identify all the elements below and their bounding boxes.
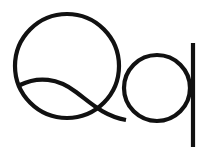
uppercase-q-tail bbox=[20, 80, 126, 120]
lowercase-q-bowl bbox=[124, 55, 190, 121]
glyph-specimen: Qq bbox=[0, 0, 204, 154]
qq-glyph-drawing bbox=[0, 0, 204, 154]
uppercase-q-bowl bbox=[15, 14, 119, 118]
